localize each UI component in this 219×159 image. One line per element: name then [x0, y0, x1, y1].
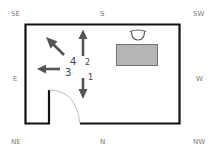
arrow-label-4: 4 — [70, 57, 76, 67]
arrow-up-icon — [79, 30, 88, 57]
chair-icon — [130, 30, 146, 40]
floor-plan — [0, 0, 219, 159]
arrow-down-icon — [79, 78, 88, 99]
door-arc — [49, 90, 80, 124]
arrow-up-left-icon — [46, 37, 64, 55]
arrow-label-2: 2 — [85, 59, 90, 67]
arrow-label-3: 3 — [65, 68, 71, 78]
arrow-label-1: 1 — [88, 74, 93, 82]
desk-rect — [117, 45, 158, 66]
arrow-left-icon — [37, 65, 60, 74]
